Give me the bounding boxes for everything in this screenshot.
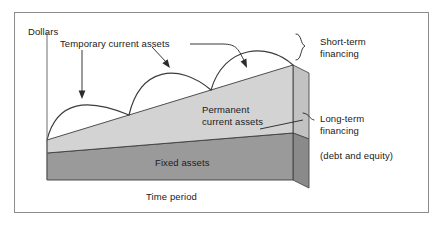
x-axis-label: Time period [146,191,197,203]
short-term-financing-label-line1: Short-term [320,36,366,47]
long-term-financing-label-line1: Long-term [320,113,364,124]
debt-and-equity-label: (debt and equity) [320,150,393,162]
permanent-current-assets-label-line2: current assets [202,116,263,127]
side-face-fixed-assets [293,133,309,188]
permanent-current-assets-label: Permanent current assets [202,104,292,127]
permanent-current-assets-label-line1: Permanent [202,104,249,115]
y-axis-label: Dollars [28,26,58,38]
temporary-current-assets-label: Temporary current assets [60,38,170,50]
figure-root: Dollars Temporary current assets Permane… [0,0,444,232]
short-term-financing-label-line2: financing [320,48,359,59]
long-term-financing-label: Long-term financing [320,113,410,136]
fixed-assets-label: Fixed assets [155,157,210,169]
side-face-permanent-current-assets [293,65,309,139]
long-term-financing-label-line2: financing [320,125,359,136]
short-term-financing-label: Short-term financing [320,36,410,59]
